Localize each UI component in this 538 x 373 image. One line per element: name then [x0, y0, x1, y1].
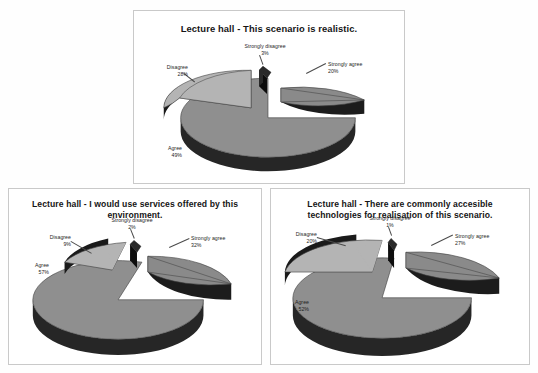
- label-strongly-agree-name: Strongly agree: [455, 233, 489, 239]
- label-strongly-agree-value: 32%: [191, 242, 261, 249]
- pie-svg: [9, 189, 261, 364]
- label-strongly-disagree-value: 1%: [353, 222, 427, 229]
- chart-panel-realistic: Lecture hall - This scenario is realisti…: [133, 10, 405, 184]
- label-disagree-value: 20%: [271, 238, 317, 245]
- label-disagree-name: Disagree: [167, 64, 188, 70]
- label-agree-name: Agree: [168, 145, 182, 151]
- label-disagree-value: 28%: [142, 71, 188, 78]
- label-disagree-value: 9%: [23, 241, 71, 248]
- label-strongly-agree-name: Strongly agree: [328, 61, 362, 67]
- label-strongly-disagree: Strongly disagree 2%: [95, 217, 169, 231]
- label-strongly-agree: Strongly agree 20%: [328, 61, 400, 75]
- label-strongly-disagree-name: Strongly disagree: [244, 43, 285, 49]
- label-agree: Agree 49%: [140, 145, 182, 159]
- label-strongly-disagree: Strongly disagree 1%: [353, 215, 427, 229]
- label-strongly-agree-value: 27%: [455, 240, 527, 247]
- label-strongly-agree: Strongly agree 32%: [191, 235, 261, 249]
- label-disagree: Disagree 9%: [23, 234, 71, 248]
- label-agree-name: Agree: [35, 262, 49, 268]
- label-disagree: Disagree 28%: [142, 64, 188, 78]
- label-disagree: Disagree 20%: [271, 231, 317, 245]
- label-strongly-disagree-value: 3%: [228, 50, 302, 57]
- document-sheet: Lecture hall - This scenario is realisti…: [0, 0, 538, 373]
- pie-chart-would-use: [9, 189, 261, 364]
- label-disagree-name: Disagree: [50, 234, 71, 240]
- label-strongly-disagree-name: Strongly disagree: [111, 217, 152, 223]
- label-strongly-agree: Strongly agree 27%: [455, 233, 527, 247]
- label-strongly-agree-value: 20%: [328, 68, 400, 75]
- label-strongly-disagree: Strongly disagree 3%: [228, 43, 302, 57]
- label-disagree-name: Disagree: [296, 231, 317, 237]
- label-strongly-disagree-name: Strongly disagree: [369, 215, 410, 221]
- chart-panel-technologies: Lecture hall - There are commonly accesi…: [270, 188, 530, 365]
- label-agree-name: Agree: [295, 299, 309, 305]
- label-agree: Agree 57%: [11, 262, 49, 276]
- label-agree-value: 57%: [11, 269, 49, 276]
- label-strongly-disagree-value: 2%: [95, 224, 169, 231]
- label-strongly-agree-name: Strongly agree: [191, 235, 225, 241]
- label-agree-value: 52%: [271, 306, 309, 313]
- label-agree-value: 49%: [140, 152, 182, 159]
- chart-panel-would-use: Lecture hall - I would use services offe…: [8, 188, 262, 365]
- label-agree: Agree 52%: [271, 299, 309, 313]
